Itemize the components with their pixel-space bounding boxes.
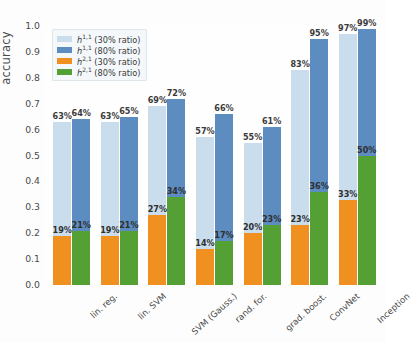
- segment-h21-30: [244, 233, 262, 285]
- segment-h11-30: [244, 143, 262, 234]
- value-label-h11-30: 57%: [194, 126, 216, 136]
- value-label-h11-80: 72%: [165, 88, 187, 98]
- y-tick-0.5: 0.5: [18, 150, 40, 161]
- y-tick-0.3: 0.3: [18, 201, 40, 212]
- legend-swatch: [57, 36, 72, 42]
- segment-h11-30: [148, 106, 166, 215]
- legend-label: h1,1 (30% ratio): [77, 33, 140, 45]
- bar-80-ratio: [120, 117, 138, 285]
- segment-h21-30: [339, 200, 357, 285]
- bar-group: 57%66%14%17%: [196, 26, 233, 285]
- segment-h21-30: [53, 236, 71, 285]
- legend-item: h2,1 (30% ratio): [57, 55, 140, 66]
- x-label-lin-reg: lin. reg.: [88, 291, 119, 320]
- legend-label: h2,1 (30% ratio): [77, 55, 140, 67]
- x-label-convnet: ConvNet: [327, 291, 361, 323]
- y-tick-0.0: 0.0: [18, 279, 40, 290]
- segment-h11-80: [167, 99, 185, 197]
- x-label-grad-boost: grad. boost.: [283, 291, 328, 333]
- segment-h21-80: [120, 231, 138, 285]
- bar-30-ratio: [291, 70, 309, 285]
- value-label-h11-80: 95%: [308, 28, 330, 38]
- value-label-h21-80: 23%: [261, 214, 283, 224]
- bar-80-ratio: [263, 127, 281, 285]
- figure-caption-remnant: [0, 330, 386, 342]
- value-label-h11-30: 55%: [242, 132, 264, 142]
- y-tick-1.0: 1.0: [18, 20, 40, 31]
- segment-h21-30: [101, 236, 119, 285]
- bar-30-ratio: [101, 122, 119, 285]
- segment-h11-30: [53, 122, 71, 236]
- segment-h21-80: [72, 231, 90, 285]
- y-tick-0.7: 0.7: [18, 98, 40, 109]
- chart-legend: h1,1 (30% ratio)h1,1 (80% ratio)h2,1 (30…: [52, 29, 147, 81]
- legend-swatch: [57, 69, 72, 75]
- y-tick-0.6: 0.6: [18, 124, 40, 135]
- y-axis-label: accuracy: [0, 0, 13, 118]
- bar-30-ratio: [244, 143, 262, 285]
- value-label-h11-80: 61%: [261, 116, 283, 126]
- segment-h11-30: [291, 70, 309, 225]
- x-label-rand-for: rand. for.: [233, 291, 269, 324]
- bar-80-ratio: [215, 114, 233, 285]
- value-label-h11-30: 83%: [289, 59, 311, 69]
- value-label-h21-80: 36%: [308, 181, 330, 191]
- segment-h11-80: [215, 114, 233, 241]
- bar-80-ratio: [358, 29, 376, 285]
- segment-h11-80: [358, 29, 376, 156]
- value-label-h21-80: 21%: [118, 220, 140, 230]
- segment-h21-80: [263, 225, 281, 285]
- legend-item: h1,1 (80% ratio): [57, 44, 140, 55]
- legend-label: h1,1 (80% ratio): [77, 44, 140, 56]
- value-label-h21-80: 21%: [70, 220, 92, 230]
- y-tick-0.2: 0.2: [18, 227, 40, 238]
- segment-h21-30: [148, 215, 166, 285]
- bar-30-ratio: [53, 122, 71, 285]
- legend-item: h1,1 (30% ratio): [57, 33, 140, 44]
- bar-30-ratio: [339, 34, 357, 285]
- segment-h21-80: [167, 197, 185, 285]
- value-label-h21-80: 17%: [213, 230, 235, 240]
- value-label-h21-30: 33%: [337, 189, 359, 199]
- value-label-h11-80: 65%: [118, 106, 140, 116]
- value-label-h21-80: 50%: [356, 145, 378, 155]
- segment-h11-80: [263, 127, 281, 225]
- segment-h11-30: [196, 137, 214, 248]
- segment-h21-30: [196, 249, 214, 285]
- bar-group: 69%72%27%34%: [148, 26, 185, 285]
- bar-group: 83%95%23%36%: [291, 26, 328, 285]
- y-tick-0.4: 0.4: [18, 175, 40, 186]
- x-label-inception: Inception: [375, 291, 411, 325]
- bar-30-ratio: [196, 137, 214, 285]
- bar-group: 55%61%20%23%: [244, 26, 281, 285]
- x-label-lin-svm: lin. SVM: [136, 291, 168, 321]
- bar-group: 97%99%33%50%: [339, 26, 376, 285]
- segment-h11-30: [101, 122, 119, 236]
- value-label-h21-30: 27%: [146, 204, 168, 214]
- segment-h11-30: [339, 34, 357, 200]
- value-label-h11-80: 64%: [70, 108, 92, 118]
- segment-h21-80: [358, 156, 376, 286]
- legend-swatch: [57, 47, 72, 53]
- bar-80-ratio: [310, 39, 328, 285]
- y-tick-0.1: 0.1: [18, 253, 40, 264]
- legend-swatch: [57, 58, 72, 64]
- value-label-h11-80: 66%: [213, 103, 235, 113]
- value-label-h21-80: 34%: [165, 186, 187, 196]
- y-tick-0.8: 0.8: [18, 72, 40, 83]
- value-label-h21-30: 23%: [289, 214, 311, 224]
- segment-h11-80: [120, 117, 138, 231]
- bar-30-ratio: [148, 106, 166, 285]
- value-label-h11-80: 99%: [356, 18, 378, 28]
- segment-h21-80: [215, 241, 233, 285]
- legend-label: h2,1 (80% ratio): [77, 66, 140, 78]
- segment-h21-80: [310, 192, 328, 285]
- segment-h21-30: [291, 225, 309, 285]
- legend-item: h2,1 (80% ratio): [57, 66, 140, 77]
- segment-h11-80: [72, 119, 90, 230]
- y-tick-0.9: 0.9: [18, 46, 40, 57]
- bar-80-ratio: [72, 119, 90, 285]
- segment-h11-80: [310, 39, 328, 192]
